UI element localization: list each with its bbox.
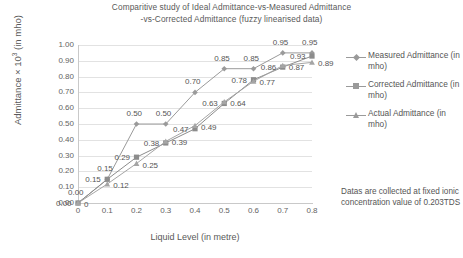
chart-annotation: Datas are collected at fixed ionic conce… — [341, 186, 461, 208]
diamond-marker-icon — [346, 53, 366, 61]
data-label: 0.50 — [127, 109, 143, 118]
x-axis-tick-label: 0.2 — [124, 206, 150, 215]
legend-item-label: Actual Admittance (in mho) — [368, 108, 461, 129]
data-label: 0.49 — [201, 123, 217, 132]
data-label: 0.77 — [260, 78, 276, 87]
legend-item[interactable]: Corrected Admittance (in mho) — [346, 79, 461, 100]
data-label: 0.25 — [143, 161, 159, 170]
y-axis-tick-label: 0.80 — [40, 72, 74, 81]
x-axis-tick-label: 0.4 — [182, 206, 208, 215]
data-label: 0.39 — [172, 138, 188, 147]
x-axis-tick-label: 0.8 — [299, 206, 325, 215]
data-label: 0.50 — [156, 109, 172, 118]
data-label: 0.95 — [273, 38, 289, 47]
y-axis-title-prefix: Admittance × 10 — [12, 56, 23, 125]
data-label: 0.78 — [232, 76, 248, 85]
chart-title-line-1: Comparitive study of Ideal Admittance-vs… — [112, 2, 351, 12]
data-label: 0.38 — [144, 139, 160, 148]
x-axis-tick-label: 0 — [65, 206, 91, 215]
data-label: 0.89 — [318, 59, 334, 68]
y-axis-tick-label: 0.90 — [40, 56, 74, 65]
data-point-marker — [280, 50, 286, 56]
data-point-marker — [134, 121, 140, 127]
chart-page: Comparitive study of Ideal Admittance-vs… — [0, 0, 463, 258]
x-axis-tick-label: 0.3 — [153, 206, 179, 215]
y-axis-title-suffix: (in mho) — [12, 15, 23, 52]
square-marker-icon — [346, 82, 366, 90]
data-label: 0.15 — [97, 164, 113, 173]
y-axis-title: Admittance × 103 (in mho) — [11, 0, 23, 145]
series-square — [75, 53, 314, 205]
x-axis-title: Liquid Level (in metre) — [78, 232, 312, 242]
data-point-marker — [105, 177, 110, 182]
x-axis-tick-label: 0.7 — [270, 206, 296, 215]
data-label: 0.87 — [289, 63, 305, 72]
data-label: 0.86 — [261, 63, 277, 72]
y-axis-tick-label: 0.20 — [40, 166, 74, 175]
chart-title-line-2: -vs-Corrected Admittance (fuzzy linearis… — [0, 13, 463, 25]
data-label: 0.47 — [173, 125, 189, 134]
data-point-marker — [134, 155, 139, 160]
data-label: 0.93 — [290, 52, 306, 61]
y-axis-tick-label: 1.00 — [40, 40, 74, 49]
data-label: 0.63 — [202, 99, 218, 108]
data-label: 0.15 — [85, 175, 101, 184]
y-axis-tick-label: 0.40 — [40, 135, 74, 144]
x-axis-tick-label: 0.6 — [241, 206, 267, 215]
y-axis-tick-label: 0.70 — [40, 87, 74, 96]
y-axis-tick-label: 0.30 — [40, 151, 74, 160]
chart-legend: Measured Admittance (in mho)Corrected Ad… — [346, 50, 461, 137]
legend-item-label: Measured Admittance (in mho) — [368, 50, 461, 71]
y-axis-title-exponent: 3 — [11, 53, 18, 57]
chart-title: Comparitive study of Ideal Admittance-vs… — [0, 1, 463, 25]
data-label: 0.00 — [68, 188, 84, 197]
data-label: 0.29 — [115, 153, 131, 162]
x-axis-tick-label: 0.5 — [211, 206, 237, 215]
x-axis-tick-labels: 00.10.20.30.40.50.60.70.8 — [78, 206, 312, 220]
data-label: 0.12 — [113, 181, 129, 190]
triangle-marker-icon — [346, 111, 366, 119]
series-layer — [78, 45, 312, 203]
data-label: 0.95 — [302, 38, 318, 47]
legend-item[interactable]: Actual Admittance (in mho) — [346, 108, 461, 129]
y-axis-tick-label: 0.50 — [40, 119, 74, 128]
legend-item-label: Corrected Admittance (in mho) — [368, 79, 461, 100]
data-label: 0.70 — [185, 77, 201, 86]
x-axis-line — [78, 203, 313, 204]
x-axis-tick-label: 0.1 — [94, 206, 120, 215]
legend-item[interactable]: Measured Admittance (in mho) — [346, 50, 461, 71]
data-point-marker — [309, 53, 314, 58]
data-label: 0.64 — [230, 99, 246, 108]
y-axis-tick-labels: 0.000.100.200.300.400.500.600.700.800.90… — [36, 45, 74, 203]
y-axis-tick-label: 0.60 — [40, 103, 74, 112]
data-label: 0.85 — [244, 54, 260, 63]
data-label: 0.85 — [214, 54, 230, 63]
data-point-marker — [251, 66, 257, 72]
data-point-marker — [104, 181, 110, 186]
